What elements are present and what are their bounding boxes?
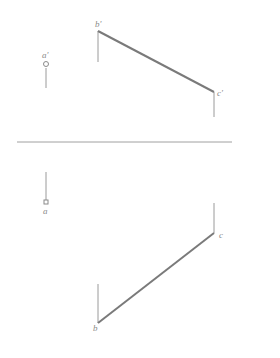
- segment-b-c: [98, 233, 214, 323]
- label-c-prime: c': [217, 88, 224, 98]
- point-a-prime-marker: [44, 62, 49, 67]
- label-b: b: [93, 323, 98, 333]
- projection-diagram: a' b' c' a c b: [0, 0, 280, 358]
- label-a-prime: a': [42, 50, 50, 60]
- label-a: a: [43, 206, 48, 216]
- front-view: a' b' c': [42, 19, 224, 117]
- segment-b-prime-c-prime: [98, 31, 214, 92]
- label-b-prime: b': [95, 19, 103, 29]
- label-c: c: [219, 230, 223, 240]
- point-a-marker: [44, 200, 48, 204]
- top-view: a c b: [43, 172, 223, 333]
